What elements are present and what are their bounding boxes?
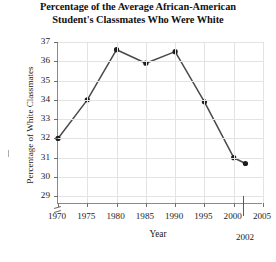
- y-axis-tick-label: 30: [24, 171, 50, 181]
- y-axis-title: Percentage of White Classmates: [25, 43, 35, 208]
- x-axis-tick: [175, 203, 176, 207]
- y-axis-tick: [54, 42, 58, 43]
- y-axis-tick: [54, 158, 58, 159]
- y-axis-tick-label: 33: [24, 113, 50, 123]
- gridline-vertical: [263, 42, 264, 204]
- gridline-vertical: [87, 42, 88, 204]
- x-axis-tick: [204, 203, 205, 207]
- gridline-vertical: [117, 42, 118, 204]
- gridline-horizontal: [58, 138, 263, 139]
- gridline-horizontal: [58, 100, 263, 101]
- y-axis-tick-label: 31: [24, 152, 50, 162]
- chart-title-line-2: Student's Classmates Who Were White: [0, 14, 276, 27]
- x-axis-tick: [146, 203, 147, 207]
- x-axis-tick: [87, 203, 88, 207]
- series-polyline: [58, 50, 245, 164]
- y-axis-tick: [54, 81, 58, 82]
- y-axis-tick: [54, 100, 58, 101]
- plot-area: [57, 42, 262, 204]
- gridline-vertical: [234, 42, 235, 204]
- y-axis-tick: [54, 119, 58, 120]
- gridline-vertical: [146, 42, 147, 204]
- y-axis-tick: [54, 138, 58, 139]
- x-axis-tick-label: 2005: [245, 211, 276, 221]
- y-axis-tick-label: 32: [24, 132, 50, 142]
- y-axis-tick-label: 35: [24, 75, 50, 85]
- chart-title-line-1: Percentage of the Average African-Americ…: [0, 1, 276, 14]
- scan-artifact: [8, 150, 9, 157]
- y-axis-tick-label: 34: [24, 94, 50, 104]
- gridline-horizontal: [58, 119, 263, 120]
- x-axis-tick: [263, 203, 264, 207]
- y-axis-tick-label: 36: [24, 55, 50, 65]
- gridline-horizontal: [58, 177, 263, 178]
- y-axis-tick: [54, 61, 58, 62]
- x-axis-tick: [234, 203, 235, 207]
- gridline-vertical: [175, 42, 176, 204]
- y-axis-tick-label: 29: [24, 190, 50, 200]
- x-axis-marker-2002-label: 2002: [228, 232, 262, 242]
- chart-figure: Percentage of the Average African-Americ…: [0, 0, 276, 262]
- gridline-horizontal: [58, 61, 263, 62]
- x-axis-tick: [117, 203, 118, 207]
- y-axis-tick: [54, 177, 58, 178]
- data-series-line: [58, 42, 263, 204]
- data-point: [243, 161, 248, 166]
- x-axis-title: Year: [118, 229, 198, 239]
- y-axis-tick: [54, 196, 58, 197]
- chart-title: Percentage of the Average African-Americ…: [0, 1, 276, 26]
- gridline-horizontal: [58, 196, 263, 197]
- y-axis-tick-label: 37: [24, 36, 50, 46]
- gridline-horizontal: [58, 81, 263, 82]
- gridline-horizontal: [58, 158, 263, 159]
- gridline-horizontal: [58, 42, 263, 43]
- gridline-vertical: [204, 42, 205, 204]
